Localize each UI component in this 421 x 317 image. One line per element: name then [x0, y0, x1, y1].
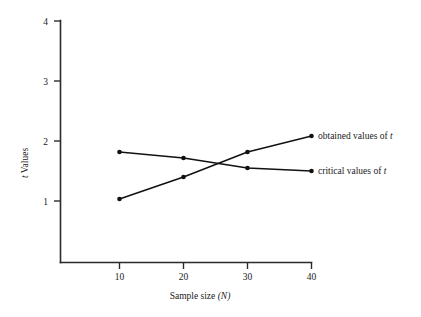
- legend-label-critical-italic: t: [384, 166, 387, 176]
- legend-label-critical-text: critical values of: [318, 166, 384, 176]
- line-chart-svg: 4 3 2 1 10 20 30 40 t Values: [0, 0, 421, 317]
- legend-label-critical: critical values of t: [318, 166, 387, 176]
- series-obtained-point-20: [181, 175, 186, 180]
- svg-text:Sample size (N): Sample size (N): [170, 291, 231, 302]
- x-axis-ticks: [120, 263, 312, 270]
- x-axis-title-italic: (N): [218, 291, 231, 302]
- series-critical-values: [117, 150, 314, 174]
- y-axis-tick-labels: 4 3 2 1: [43, 17, 48, 207]
- series-critical-point-30: [245, 166, 250, 171]
- y-axis-ticks: [54, 21, 61, 201]
- legend-label-obtained-italic: t: [390, 131, 393, 141]
- x-tick-label-20: 20: [179, 272, 189, 282]
- chart-figure: 4 3 2 1 10 20 30 40 t Values: [0, 0, 421, 317]
- series-obtained-point-40: [309, 134, 314, 139]
- legend-label-obtained: obtained values of t: [318, 131, 393, 141]
- x-tick-label-30: 30: [243, 272, 253, 282]
- series-obtained-values: [117, 134, 314, 202]
- series-obtained-point-30: [245, 150, 250, 155]
- series-obtained-line: [120, 136, 312, 199]
- series-obtained-point-10: [117, 197, 122, 202]
- x-axis-tick-labels: 10 20 30 40: [115, 272, 317, 282]
- svg-text:t Values: t Values: [20, 148, 30, 178]
- x-tick-label-10: 10: [115, 272, 125, 282]
- series-critical-point-40: [309, 169, 314, 174]
- y-tick-label-3: 3: [43, 77, 48, 87]
- series-critical-line: [120, 152, 312, 171]
- x-axis-title: Sample size (N): [170, 291, 231, 302]
- y-tick-label-4: 4: [43, 17, 48, 27]
- y-axis-title-plain: Values: [20, 148, 30, 176]
- x-axis-title-plain: Sample size: [170, 291, 218, 301]
- y-tick-label-1: 1: [43, 197, 48, 207]
- series-critical-point-10: [117, 150, 122, 155]
- y-axis-title: t Values: [20, 148, 30, 178]
- x-tick-label-40: 40: [307, 272, 317, 282]
- y-tick-label-2: 2: [43, 137, 48, 147]
- legend: obtained values of t critical values of …: [318, 131, 393, 176]
- legend-label-obtained-text: obtained values of: [318, 131, 390, 141]
- series-critical-point-20: [181, 156, 186, 161]
